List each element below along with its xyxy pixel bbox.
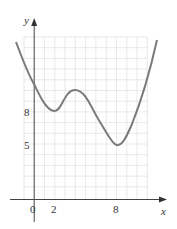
function-curve	[16, 40, 157, 145]
y-axis-label: y	[23, 14, 29, 26]
x-axis	[10, 197, 167, 203]
origin-label: 0	[30, 203, 36, 215]
x-axis-label: x	[160, 205, 166, 217]
grid	[24, 37, 147, 199]
y-tick-5: 5	[24, 139, 30, 151]
graph: y x 0 2 8 8 5	[0, 0, 177, 229]
y-axis	[31, 18, 37, 222]
x-tick-8: 8	[113, 203, 119, 215]
x-tick-2: 2	[51, 203, 57, 215]
y-tick-8: 8	[24, 106, 30, 118]
